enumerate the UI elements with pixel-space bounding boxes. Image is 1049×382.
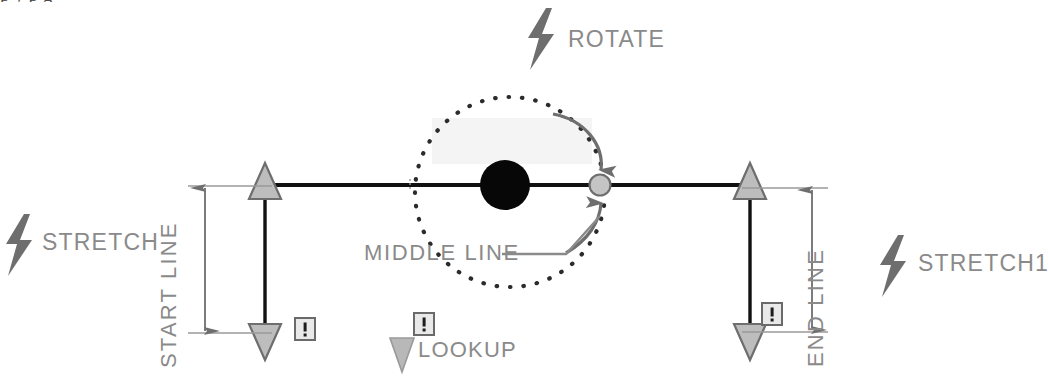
alert-badge-center[interactable] bbox=[414, 313, 434, 335]
lightning-bolt-icon-rotate[interactable] bbox=[528, 8, 554, 70]
label-rotate: ROTATE bbox=[568, 26, 665, 53]
rotation-grip[interactable] bbox=[590, 175, 611, 196]
label-stretch: STRETCH bbox=[42, 229, 159, 256]
base-point-grip[interactable] bbox=[480, 160, 530, 210]
triangle-down-icon[interactable] bbox=[390, 338, 414, 372]
stretch-grip-left[interactable] bbox=[249, 163, 281, 360]
rotation-arrow-bottom bbox=[566, 203, 601, 253]
stretch-grip-right[interactable] bbox=[734, 163, 766, 360]
watermark-remnant bbox=[432, 118, 592, 164]
alert-badge-right[interactable] bbox=[762, 303, 782, 325]
label-start-line: START LINE bbox=[156, 221, 182, 368]
alert-badge-left[interactable] bbox=[295, 318, 315, 340]
lightning-bolt-icon-stretch1[interactable] bbox=[880, 235, 906, 297]
label-middle-line: MIDDLE LINE bbox=[364, 240, 520, 266]
label-lookup: LOOKUP bbox=[418, 337, 517, 363]
lightning-bolt-icon-stretch[interactable] bbox=[6, 214, 32, 276]
label-end-line: END LINE bbox=[803, 248, 829, 367]
start-line-dimension bbox=[188, 186, 272, 333]
label-stretch1: STRETCH1 bbox=[918, 250, 1049, 277]
